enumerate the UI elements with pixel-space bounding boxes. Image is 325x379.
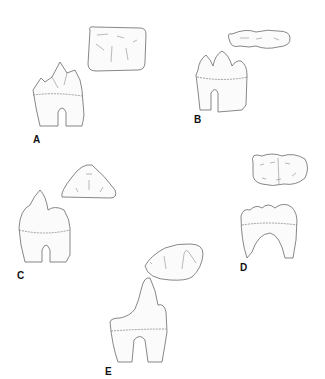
panel-label-a: A <box>33 134 40 145</box>
tooth-illustration <box>0 0 325 379</box>
panel-e-lateral <box>110 278 167 362</box>
panel-c-occlusal <box>62 165 116 198</box>
panel-a-occlusal <box>88 27 146 71</box>
panel-c-lateral <box>19 190 70 262</box>
panel-label-e: E <box>105 366 112 377</box>
panel-b-occlusal <box>228 30 290 48</box>
panel-b-lateral <box>196 51 248 112</box>
panel-label-c: C <box>17 270 24 281</box>
panel-d-lateral <box>241 204 297 258</box>
panel-d-occlusal <box>252 154 307 186</box>
panel-label-b: B <box>194 114 201 125</box>
panel-label-d: D <box>240 262 247 273</box>
panel-e-occlusal <box>145 244 203 280</box>
panel-a-lateral <box>33 62 84 126</box>
